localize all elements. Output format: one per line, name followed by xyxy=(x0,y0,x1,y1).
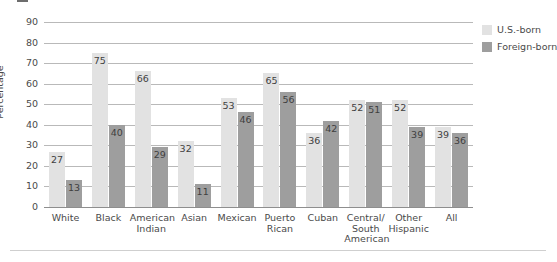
x-tick-label: Asian xyxy=(173,213,216,224)
bar: 46 xyxy=(238,112,254,207)
gridline xyxy=(44,22,473,23)
x-tick-line: Mexican xyxy=(216,213,259,224)
x-tick-line: Black xyxy=(87,213,130,224)
x-tick-label: PuertoRican xyxy=(259,213,302,234)
bar: 52 xyxy=(392,100,408,207)
y-tick-label: 80 xyxy=(12,38,38,48)
bar-value-label: 52 xyxy=(392,102,408,113)
gridline xyxy=(44,84,473,85)
bar: 11 xyxy=(195,184,211,207)
bar-value-label: 52 xyxy=(349,102,365,113)
legend-label-us-born: U.S.-born xyxy=(497,24,541,35)
bar: 42 xyxy=(323,121,339,207)
bar-value-label: 40 xyxy=(109,127,125,138)
bar: 27 xyxy=(49,152,65,208)
bar: 39 xyxy=(435,127,451,207)
y-tick-label: 50 xyxy=(12,99,38,109)
x-tick-label: All xyxy=(430,213,473,224)
bar: 40 xyxy=(109,125,125,207)
bar-value-label: 46 xyxy=(238,114,254,125)
x-tick-label: Black xyxy=(87,213,130,224)
y-tick-label: 0 xyxy=(12,202,38,212)
gridline xyxy=(44,104,473,105)
bar: 29 xyxy=(152,147,168,207)
x-tick-label: Central/SouthAmerican xyxy=(344,213,387,245)
bar-value-label: 56 xyxy=(280,94,296,105)
bar: 65 xyxy=(263,73,279,207)
bar: 52 xyxy=(349,100,365,207)
x-tick-line: Asian xyxy=(173,213,216,224)
x-tick-label: Cuban xyxy=(301,213,344,224)
y-tick-label: 40 xyxy=(12,120,38,130)
bar-value-label: 36 xyxy=(452,135,468,146)
x-tick-label: White xyxy=(44,213,87,224)
bottom-rule xyxy=(10,250,546,251)
x-tick-line: American xyxy=(130,213,173,224)
x-tick-line: Other xyxy=(387,213,430,224)
x-tick-line: Indian xyxy=(130,224,173,235)
gridline xyxy=(44,43,473,44)
bar-value-label: 66 xyxy=(135,73,151,84)
bar-value-label: 11 xyxy=(195,186,211,197)
bar: 32 xyxy=(178,141,194,207)
x-axis-line xyxy=(44,207,473,208)
bar: 36 xyxy=(306,133,322,207)
bar: 39 xyxy=(409,127,425,207)
x-tick-line: Rican xyxy=(259,224,302,235)
title-remnant xyxy=(17,0,28,2)
bar-value-label: 27 xyxy=(49,154,65,165)
legend-label-foreign-born: Foreign-born xyxy=(497,41,557,52)
x-tick-label: Mexican xyxy=(216,213,259,224)
x-tick-line: Central/ xyxy=(344,213,387,224)
legend-item-us-born: U.S.-born xyxy=(482,24,556,35)
bar: 51 xyxy=(366,102,382,207)
legend-item-foreign-born: Foreign-born xyxy=(482,41,556,52)
y-tick-label: 90 xyxy=(12,17,38,27)
y-tick-label: 10 xyxy=(12,181,38,191)
bar-value-label: 51 xyxy=(366,104,382,115)
bar: 66 xyxy=(135,71,151,207)
bar-value-label: 42 xyxy=(323,123,339,134)
bar-value-label: 32 xyxy=(178,143,194,154)
y-axis-label: Percentage xyxy=(0,65,5,118)
bar: 56 xyxy=(280,92,296,207)
bar-value-label: 53 xyxy=(221,100,237,111)
gridline xyxy=(44,63,473,64)
bar-value-label: 13 xyxy=(66,182,82,193)
x-tick-line: White xyxy=(44,213,87,224)
x-tick-label: OtherHispanic xyxy=(387,213,430,234)
x-tick-line: American xyxy=(344,234,387,245)
bar: 53 xyxy=(221,98,237,207)
bar-value-label: 75 xyxy=(92,55,108,66)
bar: 75 xyxy=(92,53,108,207)
bar-value-label: 65 xyxy=(263,75,279,86)
x-tick-line: Hispanic xyxy=(387,224,430,235)
x-tick-line: Cuban xyxy=(301,213,344,224)
bar-value-label: 29 xyxy=(152,149,168,160)
bar: 36 xyxy=(452,133,468,207)
plot-area: 2713754066293211534665563642525152393936 xyxy=(44,22,473,207)
legend-swatch-us-born xyxy=(482,25,492,35)
legend-swatch-foreign-born xyxy=(482,42,492,52)
chart-legend: U.S.-born Foreign-born xyxy=(482,24,556,58)
y-tick-label: 20 xyxy=(12,161,38,171)
y-tick-label: 30 xyxy=(12,140,38,150)
x-tick-line: All xyxy=(430,213,473,224)
y-tick-label: 60 xyxy=(12,79,38,89)
x-tick-label: AmericanIndian xyxy=(130,213,173,234)
y-tick-label: 70 xyxy=(12,58,38,68)
x-tick-line: Puerto xyxy=(259,213,302,224)
bar-value-label: 36 xyxy=(306,135,322,146)
bar-value-label: 39 xyxy=(409,129,425,140)
bar: 13 xyxy=(66,180,82,207)
bar-value-label: 39 xyxy=(435,129,451,140)
